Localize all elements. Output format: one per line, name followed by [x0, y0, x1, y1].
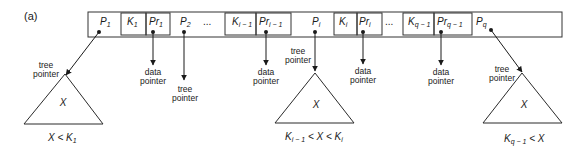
data-pointer-label: pointer [253, 76, 279, 86]
label-pri-1: Pri − 1 [259, 16, 283, 28]
field-p2: P2 [180, 16, 191, 28]
data-pointer-label: pointer [428, 76, 454, 86]
figure-label: (a) [24, 10, 37, 22]
subtree-condition-i: Ki − 1 < X < Ki [285, 131, 343, 143]
subtree-condition-q: Kq − 1 < X [504, 133, 545, 146]
tree-pointer-label: pointer [489, 73, 515, 83]
ellipsis: ... [385, 16, 393, 27]
key-ki-1: Ki − 1 [232, 16, 252, 28]
b-tree-node-diagram: (a) P1 K1 Pr1 P2 ... Ki − 1 Pri − 1 Pi K… [0, 0, 584, 154]
key-k1: K1 [127, 16, 138, 28]
data-pointer-label: pointer [140, 76, 166, 86]
tree-pointer-arrow-p1 [66, 32, 99, 75]
label-prq-1: Prq − 1 [437, 16, 463, 29]
subtree-condition-1: X < K1 [47, 132, 77, 144]
tree-pointer-label: pointer [172, 93, 198, 103]
data-pointer-label: pointer [350, 75, 376, 85]
field-pq: Pq [476, 16, 487, 29]
subtree-label: X [520, 99, 528, 110]
subtree-label: X [312, 99, 320, 110]
field-p1: P1 [97, 16, 111, 34]
tree-pointer-label: pointer [33, 69, 59, 79]
subtree-label: X [59, 97, 67, 108]
ellipsis: ... [203, 16, 211, 27]
tree-pointer-label: pointer [285, 55, 311, 65]
field-pi: Pi [312, 16, 321, 28]
label-pri: Pri [359, 16, 371, 28]
key-ki: Ki [339, 16, 348, 28]
label-pr1: Pr1 [149, 16, 163, 28]
key-kq-1: Kq − 1 [408, 16, 431, 29]
svg-text:P1: P1 [100, 16, 111, 28]
subtree-triangle-i [275, 73, 354, 123]
